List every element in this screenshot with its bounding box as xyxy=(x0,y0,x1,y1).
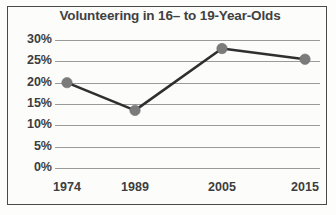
data-series-layer xyxy=(0,0,336,215)
series-line-volunteering xyxy=(67,49,305,111)
data-point-2005 xyxy=(217,43,227,53)
plot-area: 30% 25% 20% 15% 10% 5% 0% 1974 1989 2005… xyxy=(0,0,336,215)
data-point-1974 xyxy=(62,77,72,87)
data-point-1989 xyxy=(130,105,140,115)
chart-figure: Volunteering in 16– to 19-Year-Olds 30% … xyxy=(0,0,336,215)
data-point-2015 xyxy=(300,54,310,64)
